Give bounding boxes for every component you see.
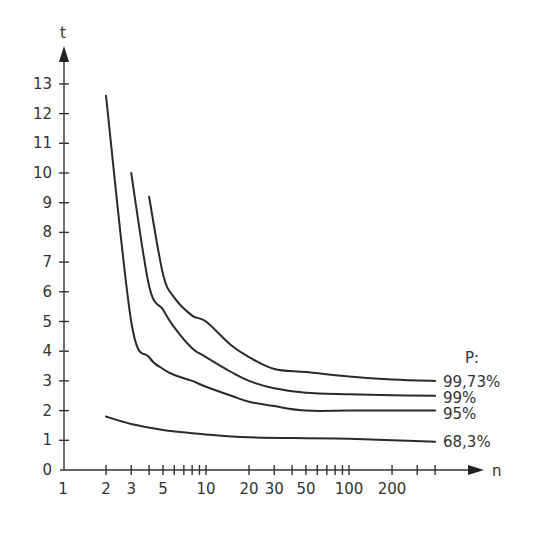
x-tick-label: 30 <box>265 480 284 498</box>
y-tick-label: 9 <box>42 194 52 212</box>
y-tick-label: 4 <box>42 342 52 360</box>
y-axis-arrow-icon <box>59 46 69 62</box>
legend-title: P: <box>465 349 479 367</box>
y-tick-label: 13 <box>33 75 52 93</box>
y-tick-label: 0 <box>42 461 52 479</box>
curve-9973 <box>149 197 435 381</box>
legend: P: 99,73% 99% 95% 68,3% <box>443 349 500 451</box>
curve-683 <box>106 417 435 442</box>
x-tick-label: 50 <box>296 480 315 498</box>
y-tick-label: 6 <box>42 283 52 301</box>
x-axis-label: n <box>492 462 502 480</box>
x-tick-label: 20 <box>240 480 259 498</box>
y-tick-label: 7 <box>42 253 52 271</box>
y-tick-label: 10 <box>33 164 52 182</box>
x-tick-label: 3 <box>126 480 136 498</box>
x-tick-label: 2 <box>101 480 111 498</box>
y-tick-label: 5 <box>42 313 52 331</box>
curves <box>106 96 435 442</box>
x-tick-label: 10 <box>196 480 215 498</box>
x-tick-label: 200 <box>378 480 407 498</box>
y-tick-label: 3 <box>42 372 52 390</box>
x-tick-label: 1 <box>58 480 68 498</box>
x-axis-arrow-icon <box>468 465 484 475</box>
y-tick-label: 12 <box>33 105 52 123</box>
legend-item-68-3: 68,3% <box>443 433 491 451</box>
y-axis-label: t <box>60 24 66 42</box>
y-tick-label: 2 <box>42 402 52 420</box>
y-tick-label: 1 <box>42 431 52 449</box>
axes: 012345678910111213 123510203050100200 <box>33 46 484 498</box>
curve-99 <box>131 173 435 396</box>
x-tick-label: 5 <box>158 480 168 498</box>
curve-95 <box>106 96 435 411</box>
legend-item-95: 95% <box>443 405 476 423</box>
t-distribution-chart: 012345678910111213 123510203050100200 t … <box>0 0 539 536</box>
y-tick-label: 11 <box>33 134 52 152</box>
y-tick-label: 8 <box>42 223 52 241</box>
x-tick-label: 100 <box>335 480 364 498</box>
